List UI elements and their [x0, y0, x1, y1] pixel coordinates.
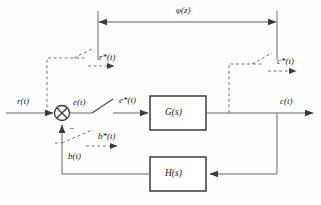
sampler-b-label: b*(t) [98, 132, 116, 141]
summing-junction-minus-sign: − [69, 123, 74, 133]
phi-span-arrow [98, 11, 277, 60]
forward-gain-block-label: G(s) [165, 108, 182, 118]
summing-junction [55, 106, 70, 121]
sampler-r-label: r*(t) [99, 53, 116, 62]
feedback-block-label: H(s) [165, 169, 182, 179]
block-diagram-canvas: φ(z) r(t) r*(t) e(t) e*(t) G(s) H(s) c(t… [0, 0, 321, 205]
c-star-dashed-branch [229, 64, 264, 113]
input-label-r: r(t) [17, 97, 29, 106]
feedback-tap-line [210, 113, 277, 174]
error-label-e: e(t) [73, 98, 86, 107]
sampler-e-label: e*(t) [119, 96, 136, 105]
phi-span-label: φ(z) [176, 6, 190, 15]
output-label-c: c(t) [280, 97, 293, 106]
sampler-c-label: c*(t) [277, 57, 294, 66]
feedback-label-b: b(t) [68, 152, 81, 161]
diagram-vector-layer [0, 0, 321, 205]
